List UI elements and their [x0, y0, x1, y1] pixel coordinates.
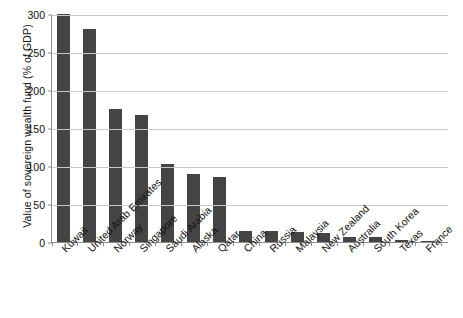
- y-tick-mark: [48, 129, 52, 130]
- y-tick-mark: [48, 205, 52, 206]
- y-tick-label: 0: [39, 237, 45, 249]
- gridline: [52, 167, 448, 168]
- y-tick-label: 150: [27, 123, 45, 135]
- y-tick-mark: [48, 167, 52, 168]
- bar: [57, 14, 70, 242]
- y-tick-label: 200: [27, 85, 45, 97]
- gridline: [52, 53, 448, 54]
- x-axis-labels: KuwaitUnited Arab EmiratesNorwaySingapor…: [51, 246, 448, 318]
- gridline: [52, 15, 448, 16]
- y-tick-label: 100: [27, 161, 45, 173]
- gridline: [52, 129, 448, 130]
- gridline: [52, 205, 448, 206]
- bar-chart: Value of sovereign wealth fund (% of GDP…: [0, 0, 463, 318]
- plot-area: 050100150200250300: [51, 15, 448, 243]
- y-tick-mark: [48, 53, 52, 54]
- y-tick-mark: [48, 91, 52, 92]
- gridline: [52, 91, 448, 92]
- bar: [83, 29, 96, 242]
- y-tick-label: 50: [33, 199, 45, 211]
- y-tick-mark: [48, 15, 52, 16]
- y-tick-label: 300: [27, 9, 45, 21]
- y-tick-label: 250: [27, 47, 45, 59]
